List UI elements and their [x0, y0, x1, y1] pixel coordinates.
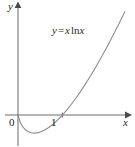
function-graph-figure: y x 0 1 y=xlnx	[0, 0, 135, 146]
x-tick-label-0: 0	[9, 117, 15, 128]
y-axis-arrowhead-icon	[15, 2, 22, 9]
x-tick-label-1: 1	[51, 117, 57, 128]
y-axis-label: y	[8, 1, 13, 12]
plot-canvas	[0, 0, 135, 146]
equation-annotation: y=xlnx	[52, 25, 84, 36]
y-axis	[15, 2, 22, 147]
equation-equals: =	[57, 24, 65, 36]
x-axis	[5, 112, 132, 119]
equation-rhs-function: ln	[70, 24, 80, 36]
equation-rhs-argument: x	[80, 24, 85, 36]
x-axis-label: x	[123, 117, 128, 128]
